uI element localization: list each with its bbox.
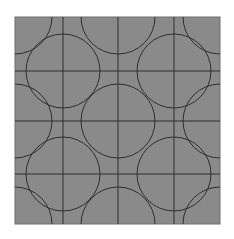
- circle-grid-pattern: [0, 0, 234, 239]
